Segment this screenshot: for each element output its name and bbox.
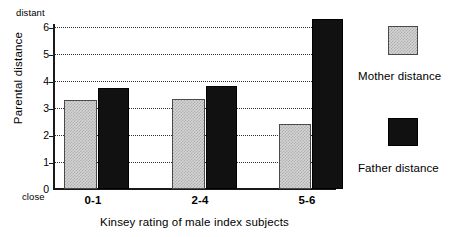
bar-mother-2-4 [172,99,205,189]
y-tick-6: 6 [9,22,49,32]
y-tick-4: 4 [9,76,49,86]
y-tick-0: 0 [9,184,49,194]
bar-father-5-6 [312,19,343,189]
y-tick-3: 3 [9,103,49,113]
bar-mother-5-6 [279,124,311,189]
bar-chart-figure: distant close Parental distance 6 5 4 3 … [0,0,463,237]
plot-area [53,27,334,189]
bar-father-2-4 [206,86,237,189]
bar-mother-0-1 [64,100,97,189]
x-tick-label-0: 0-1 [53,194,133,206]
legend-label-father: Father distance [358,162,463,174]
x-tick-label-2: 5-6 [267,194,347,206]
gridline-6 [53,27,334,28]
x-axis-title: Kinsey rating of male index subjects [53,216,336,228]
legend-swatch-mother-icon [388,26,418,55]
bar-father-0-1 [98,88,129,189]
y-axis-tick-labels: 6 5 4 3 2 1 0 [5,27,49,189]
y-tick-5: 5 [9,49,49,59]
x-tick-label-1: 2-4 [160,194,240,206]
chart-legend: Mother distance Father distance [360,0,463,237]
legend-label-mother: Mother distance [358,70,463,82]
gridline-5 [53,54,334,55]
y-tick-2: 2 [9,130,49,140]
y-tick-1: 1 [9,157,49,167]
legend-swatch-father-icon [388,118,418,146]
gridline-4 [53,81,334,82]
